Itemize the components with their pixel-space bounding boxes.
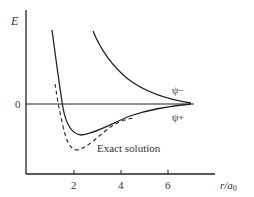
zero-label: 0 [15, 98, 21, 110]
psi-minus-label: ψ− [172, 85, 184, 96]
x-tick-label-2: 2 [71, 179, 77, 191]
psi-plus-label: ψ+ [172, 112, 184, 123]
exact-solution-curve [55, 84, 134, 150]
y-axis-label: E [10, 14, 19, 28]
x-axis-label: r/a0 [220, 179, 237, 193]
exact-solution-label: Exact solution [97, 142, 161, 154]
x-tick-label-4: 4 [118, 179, 124, 191]
energy-curve-chart: E 0 2 4 6 r/a0 ψ− ψ+ Exact solution [0, 0, 254, 197]
x-tick-label-6: 6 [165, 179, 171, 191]
psi-plus-curve [52, 30, 191, 135]
